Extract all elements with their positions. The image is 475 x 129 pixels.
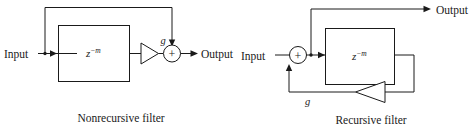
recursive-output-arrowhead <box>424 6 432 12</box>
nonrecursive-filter-diagram: z−m g + Input Output Nonrecursive filter <box>4 8 234 125</box>
nonrecursive-input-label: Input <box>4 48 29 61</box>
nonrecursive-input-arrowhead <box>50 50 57 56</box>
diagram-canvas: z−m g + Input Output Nonrecursive filter <box>0 0 475 129</box>
recursive-block-input-arrowhead <box>318 52 325 58</box>
recursive-input-label: Input <box>241 50 266 63</box>
filter-block-diagram-figure: z−m g + Input Output Nonrecursive filter <box>0 0 475 129</box>
recursive-summer-plus-sign: + <box>295 49 302 63</box>
recursive-gain-label: g <box>305 96 310 107</box>
nonrecursive-delay-block-label: z−m <box>85 46 101 59</box>
recursive-output-wire <box>311 9 428 55</box>
nonrecursive-summer-plus-sign: + <box>169 47 176 61</box>
nonrecursive-filter-caption: Nonrecursive filter <box>77 112 164 124</box>
nonrecursive-feedforward-wire <box>45 8 172 54</box>
recursive-feedback-wire-right <box>385 55 414 92</box>
nonrecursive-gain-label: g <box>161 35 166 46</box>
nonrecursive-output-label: Output <box>201 48 234 61</box>
recursive-filter-caption: Recursive filter <box>335 114 406 126</box>
recursive-output-label: Output <box>436 4 469 17</box>
nonrecursive-output-arrowhead <box>191 50 199 56</box>
recursive-feedback-arrowhead <box>286 64 292 71</box>
nonrecursive-gain-triangle-amplifier-icon <box>141 43 159 64</box>
recursive-delay-block-label: z−m <box>351 49 367 62</box>
recursive-filter-diagram: + z−m g Input Output Recursiv <box>241 4 469 127</box>
